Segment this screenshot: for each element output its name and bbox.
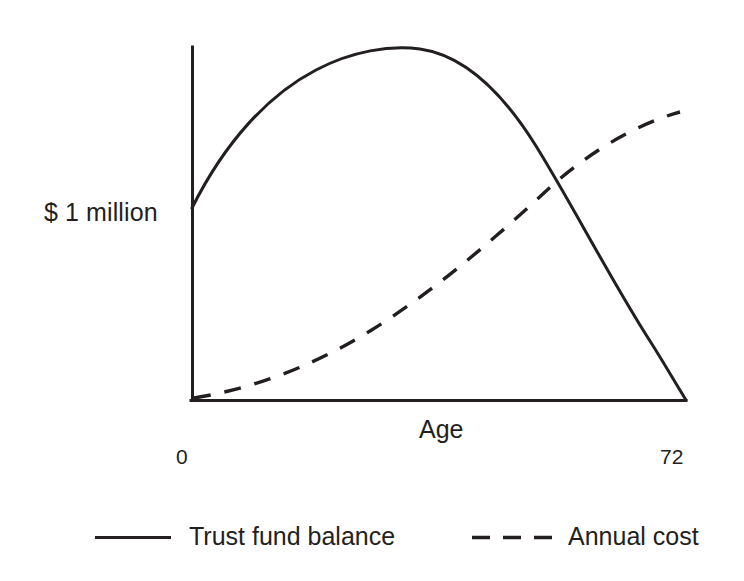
legend-label-annual-cost: Annual cost xyxy=(568,524,699,549)
x-axis-tick-0: 0 xyxy=(176,446,188,467)
x-axis-tick-72: 72 xyxy=(660,446,683,467)
legend-label-trust-fund-balance: Trust fund balance xyxy=(189,524,395,549)
series-line-annual-cost xyxy=(194,112,680,398)
series-line-trust-fund-balance xyxy=(192,48,686,400)
chart-container: $ 1 million Age 0 72 Trust fund balance … xyxy=(0,0,744,581)
y-axis-label: $ 1 million xyxy=(44,200,158,225)
chart-plot-area xyxy=(0,0,744,581)
x-axis-label: Age xyxy=(419,417,463,442)
